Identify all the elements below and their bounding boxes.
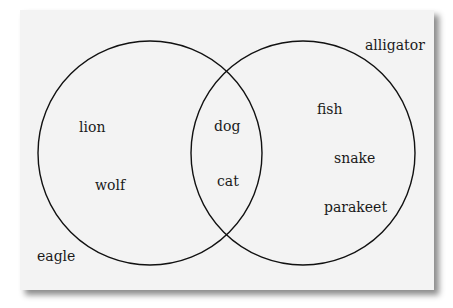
label-snake: snake (334, 150, 375, 166)
label-parakeet: parakeet (324, 199, 387, 215)
label-alligator: alligator (365, 37, 425, 53)
label-eagle: eagle (37, 248, 75, 264)
label-dog: dog (214, 118, 240, 134)
label-fish: fish (317, 101, 343, 117)
left-circle (38, 41, 262, 265)
right-circle (191, 41, 415, 265)
venn-diagram: lion wolf dog cat fish snake parakeet al… (0, 0, 453, 308)
label-wolf: wolf (95, 177, 127, 193)
label-cat: cat (217, 173, 239, 189)
label-lion: lion (79, 119, 105, 135)
